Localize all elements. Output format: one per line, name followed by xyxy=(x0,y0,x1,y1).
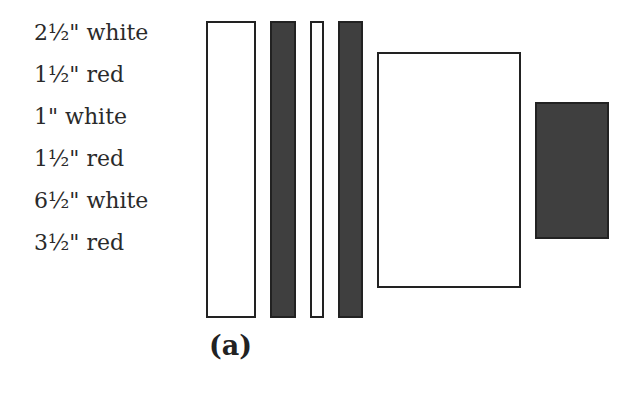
strip-1-5-red-rect xyxy=(270,21,296,318)
figure-caption: (a) xyxy=(209,330,252,361)
cut-label-1: 2½" white xyxy=(34,20,148,46)
strip-1-white-rect xyxy=(310,21,324,318)
cut-label-2: 1½" red xyxy=(34,62,124,88)
square-6-5-white-rect xyxy=(377,52,521,288)
strip-2-5-white-rect xyxy=(206,21,256,318)
cut-label-6: 3½" red xyxy=(34,230,124,256)
square-3-5-red-rect xyxy=(535,102,609,239)
cut-label-5: 6½" white xyxy=(34,188,148,214)
cut-label-3: 1" white xyxy=(34,104,127,130)
cut-label-4: 1½" red xyxy=(34,146,124,172)
strip-1-5-red-2-rect xyxy=(338,21,363,318)
